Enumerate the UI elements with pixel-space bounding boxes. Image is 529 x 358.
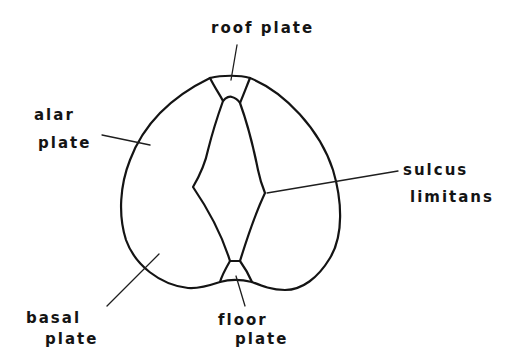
basal-plate-label-line2: plate: [45, 332, 98, 347]
basal-plate-label-line1: basal: [26, 311, 81, 326]
central-canal: [193, 97, 265, 261]
alar-plate-label-line1: alar: [34, 108, 75, 123]
neural-tube-outline: [121, 76, 340, 290]
roof-plate-boundary: [210, 78, 250, 103]
neural-tube-diagram: roof plate alar plate sulcus limitans ba…: [0, 0, 529, 358]
diagram-canvas: [0, 0, 529, 358]
sulcus-limitans-leader: [267, 171, 398, 193]
roof-plate-label: roof plate: [211, 21, 314, 36]
basal-plate-leader: [107, 254, 159, 306]
alar-plate-label-line2: plate: [38, 136, 91, 151]
floor-plate-label-line1: floor: [218, 313, 268, 328]
floor-plate-label-line2: plate: [235, 332, 288, 347]
sulcus-limitans-label-line2: limitans: [410, 190, 494, 205]
sulcus-limitans-label-line1: sulcus: [403, 163, 468, 178]
